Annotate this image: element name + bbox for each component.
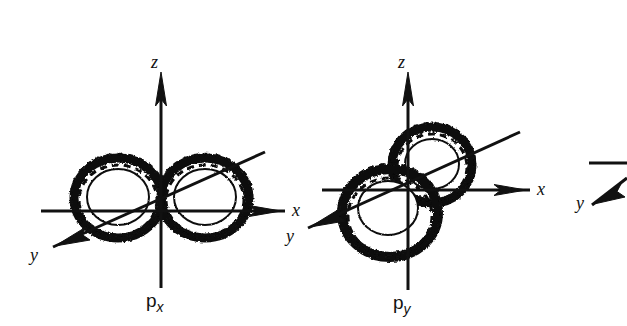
py-orbital-label: py	[393, 292, 411, 317]
px-orbital-label-base: p	[146, 290, 157, 311]
py-axis-z-label: z	[398, 52, 405, 73]
py-axis-y-label: y	[286, 226, 294, 247]
px-axis-z-label: z	[151, 52, 158, 73]
px-orbital-label-sub: x	[157, 299, 164, 315]
px-axis-y-label: y	[30, 245, 38, 266]
px-orbital-label: px	[146, 290, 164, 315]
diagram-px	[41, 72, 285, 288]
third-axis-y-label: y	[576, 193, 584, 214]
p-orbital-figure: z x y px z x y py y	[0, 0, 627, 326]
orbital-diagram-canvas	[0, 0, 627, 326]
py-orbital-label-sub: y	[404, 301, 411, 317]
px-axis-x-label: x	[292, 200, 300, 221]
py-axis-x-label: x	[537, 179, 545, 200]
diagram-third-cropped	[589, 163, 627, 205]
diagram-py	[308, 72, 530, 290]
py-orbital-label-base: p	[393, 292, 404, 313]
third-axis-y	[592, 178, 627, 205]
